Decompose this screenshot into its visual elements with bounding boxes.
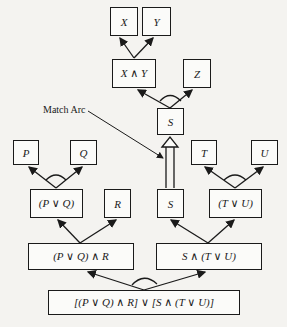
node-x-and-y-label: X ∧ Y [121, 67, 147, 80]
edges-layer [0, 0, 287, 327]
node-s-and-tu: S ∧ (T ∨ U) [156, 243, 262, 270]
node-q: Q [70, 140, 97, 165]
node-t-label: T [201, 147, 207, 159]
edge-tu-t [205, 167, 235, 188]
edge-xy-y [134, 38, 153, 58]
node-x-label: X [121, 16, 128, 28]
node-x: X [110, 7, 138, 36]
edge-stu-s [171, 220, 208, 243]
node-s-mid: S [157, 189, 184, 218]
node-s-top-label: S [168, 116, 174, 128]
edge-pq-q [56, 167, 82, 188]
node-p-label: P [23, 147, 30, 159]
node-q-label: Q [80, 147, 88, 159]
node-u: U [251, 140, 278, 165]
edge-stu-tu [208, 220, 234, 243]
match-arc-label: Match Arc [43, 104, 86, 115]
node-y-label: Y [153, 16, 159, 28]
node-s-mid-label: S [168, 198, 174, 210]
node-t-or-u: (T ∨ U) [209, 189, 262, 218]
node-y: Y [142, 7, 171, 36]
node-z: Z [183, 59, 211, 88]
node-p-or-q-label: (P ∨ Q) [39, 197, 74, 210]
node-t: T [191, 140, 217, 165]
edge-xy-x [120, 38, 134, 58]
node-root: [(P ∨ Q) ∧ R] ∨ [S ∧ (T ∨ U)] [48, 290, 240, 315]
node-u-label: U [261, 147, 269, 159]
node-z-label: Z [194, 68, 200, 80]
node-root-label: [(P ∨ Q) ∧ R] ∨ [S ∧ (T ∨ U)] [74, 296, 214, 309]
and-arc-root [132, 278, 157, 285]
node-s-and-tu-label: S ∧ (T ∨ U) [182, 250, 236, 263]
node-r-label: R [114, 198, 121, 210]
match-arc-head [162, 137, 178, 147]
node-pq-and-r-label: (P ∨ Q) ∧ R [53, 250, 109, 263]
edge-pqr-r [80, 220, 116, 243]
edge-s-xy [138, 90, 170, 108]
node-p: P [13, 140, 39, 165]
node-p-or-q: (P ∨ Q) [30, 189, 83, 218]
and-arc-tu [224, 175, 246, 180]
and-arc-s-top [160, 96, 181, 102]
node-pq-and-r: (P ∨ Q) ∧ R [28, 243, 134, 270]
edge-pq-p [29, 167, 56, 188]
node-t-or-u-label: (T ∨ U) [218, 197, 253, 210]
edge-s-z [170, 90, 192, 108]
node-s-top: S [157, 108, 184, 135]
edge-pqr-pq [58, 220, 80, 243]
match-arc-pointer [88, 111, 163, 158]
node-x-and-y: X ∧ Y [112, 59, 156, 88]
edge-tu-u [235, 167, 263, 188]
and-arc-pq [46, 175, 66, 180]
node-r: R [104, 189, 131, 218]
